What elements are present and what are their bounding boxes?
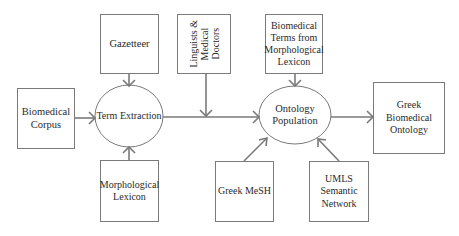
biomedical-terms-label: Biomedical Terms from Morphological Lexi… <box>264 20 323 68</box>
greek-biomedical-ontology-box: Greek Biomedical Ontology <box>373 82 445 154</box>
arrow-morph-lexicon-to-term-extraction <box>123 147 135 160</box>
arrow-term-extraction-to-ontology-population <box>163 111 259 123</box>
greek-mesh-box: Greek MeSH <box>215 161 274 222</box>
gazetteer-label: Gazetteer <box>109 38 149 51</box>
biomedical-terms-box: Biomedical Terms from Morphological Lexi… <box>265 14 323 74</box>
term-extraction-node: Term Extraction <box>95 85 163 147</box>
umls-label: UMLS Semantic Network <box>320 173 357 211</box>
greek-mesh-label: Greek MeSH <box>218 185 271 198</box>
term-extraction-label: Term Extraction <box>96 110 161 123</box>
umls-box: UMLS Semantic Network <box>309 161 369 222</box>
arrow-biomedical-terms-to-ontology-population <box>289 74 301 86</box>
arrow-corpus-to-term-extraction <box>74 112 95 124</box>
biomedical-corpus-label: Biomedical Corpus <box>22 106 70 131</box>
arrow-ontology-population-to-greek-ontology <box>331 111 373 123</box>
morphological-lexicon-label: Morphological Lexicon <box>100 179 159 204</box>
linguists-box: Linguists & Medical Doctors <box>177 14 231 74</box>
ontology-population-node: Ontology Population <box>259 86 331 144</box>
linguists-label: Linguists & Medical Doctors <box>188 20 221 68</box>
biomedical-corpus-box: Biomedical Corpus <box>17 88 75 149</box>
ontology-population-label: Ontology Population <box>272 103 318 128</box>
arrow-linguists-to-edge <box>200 74 212 116</box>
gazetteer-box: Gazetteer <box>100 14 159 74</box>
greek-biomedical-ontology-label: Greek Biomedical Ontology <box>374 99 444 137</box>
morphological-lexicon-box: Morphological Lexicon <box>100 160 159 222</box>
